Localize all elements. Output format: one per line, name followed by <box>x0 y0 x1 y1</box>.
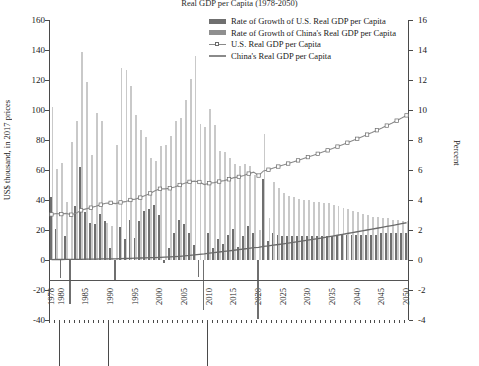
x-axis-tick <box>365 320 366 323</box>
x-axis-tick <box>261 320 262 323</box>
y-axis-right-tick-label: 14 <box>418 45 427 55</box>
x-axis-tick <box>360 320 361 323</box>
x-axis-tick <box>310 320 311 323</box>
y-axis-right-tick <box>409 170 413 171</box>
marker-us-gdp <box>178 183 181 186</box>
marker-us-gdp <box>99 203 102 206</box>
marker-us-gdp <box>405 114 408 117</box>
x-axis-tick <box>148 320 149 323</box>
legend-item[interactable]: China's Real GDP per Capita <box>209 51 414 62</box>
x-axis-tick <box>108 320 109 366</box>
x-axis-tick <box>153 320 154 323</box>
line-us-gdp <box>51 115 406 214</box>
line-series-group <box>49 20 409 320</box>
x-axis-tick <box>222 320 223 323</box>
plot-area <box>49 20 409 320</box>
x-axis-tick <box>49 320 50 323</box>
legend-swatch-icon <box>209 19 226 24</box>
marker-us-gdp <box>227 178 230 181</box>
legend-label: Rate of Growth of China's Real GDP per C… <box>231 28 396 38</box>
x-axis-tick <box>64 320 65 323</box>
x-axis-tick <box>103 320 104 323</box>
x-axis-tick <box>355 320 356 323</box>
y-axis-right-tick-label: 0 <box>418 255 423 265</box>
marker-us-gdp <box>267 168 270 171</box>
x-axis-tick <box>374 320 375 323</box>
x-axis-tick <box>113 320 114 323</box>
marker-us-gdp <box>296 159 299 162</box>
marker-us-gdp <box>198 180 201 183</box>
x-axis-tick <box>133 320 134 323</box>
x-axis-tick <box>291 320 292 323</box>
marker-us-gdp <box>356 137 359 140</box>
marker-us-gdp <box>346 141 349 144</box>
legend-item[interactable]: Rate of Growth of U.S. Real GDP per Capi… <box>209 16 414 27</box>
x-axis-tick <box>296 320 297 323</box>
x-axis-tick <box>157 320 158 323</box>
x-axis-tick <box>301 320 302 323</box>
x-axis-tick <box>330 320 331 323</box>
marker-us-gdp <box>139 196 142 199</box>
x-axis-tick <box>207 320 208 366</box>
marker-us-gdp <box>385 124 388 127</box>
legend-label: China's Real GDP per Capita <box>231 51 331 61</box>
marker-us-gdp <box>148 192 151 195</box>
x-axis-tick <box>187 320 188 323</box>
y-axis-left-tick-label: -20 <box>33 285 45 295</box>
y-axis-left-labels: 160140120100806040200-20-40 <box>0 20 45 320</box>
legend-label: U.S. Real GDP per Capita <box>231 39 321 49</box>
x-axis-tick <box>118 320 119 323</box>
x-axis-tick <box>202 320 203 323</box>
y-axis-right-tick <box>409 260 413 261</box>
legend-line-icon <box>209 42 226 47</box>
x-axis-tick <box>172 320 173 323</box>
y-axis-right-tick <box>409 140 413 141</box>
x-axis-tick <box>394 320 395 323</box>
y-axis-right-tick <box>409 110 413 111</box>
x-axis-tick <box>320 320 321 323</box>
y-axis-right-tick-label: -4 <box>418 315 426 325</box>
legend-label: Rate of Growth of U.S. Real GDP per Capi… <box>231 16 386 26</box>
y-axis-left-tick-label: 20 <box>36 225 45 235</box>
marker-us-gdp <box>395 119 398 122</box>
x-axis-tick <box>162 320 163 323</box>
y-axis-right-tick-label: 10 <box>418 105 427 115</box>
y-axis-right-labels: 1614121086420-2-4 <box>418 20 468 320</box>
x-axis-tick <box>335 320 336 323</box>
marker-us-gdp <box>208 182 211 185</box>
x-axis-tick <box>93 320 94 323</box>
y-axis-right-tick-label: 8 <box>418 135 423 145</box>
x-axis-tick <box>305 320 306 323</box>
x-axis-tick <box>340 320 341 323</box>
marker-us-gdp <box>129 198 132 201</box>
line-china-gdp <box>51 223 406 260</box>
x-axis-tick <box>98 320 99 323</box>
legend-item[interactable]: U.S. Real GDP per Capita <box>209 39 414 50</box>
x-axis-tick <box>84 320 85 323</box>
x-axis-tick <box>54 320 55 323</box>
marker-us-gdp <box>326 149 329 152</box>
y-axis-right-tick <box>409 290 413 291</box>
y-axis-right-tick <box>409 80 413 81</box>
marker-us-gdp <box>257 174 260 177</box>
x-axis-tick <box>399 320 400 323</box>
marker-us-gdp <box>336 145 339 148</box>
x-axis-tick <box>138 320 139 323</box>
legend-item[interactable]: Rate of Growth of China's Real GDP per C… <box>209 28 414 39</box>
y-axis-right-tick-label: 16 <box>418 15 427 25</box>
x-axis-tick <box>276 320 277 323</box>
x-axis-tick <box>167 320 168 323</box>
y-axis-left-tick-label: 140 <box>32 45 46 55</box>
x-axis-tick <box>192 320 193 323</box>
x-axis-tick <box>227 320 228 323</box>
marker-us-gdp <box>50 213 53 216</box>
y-axis-left-tick-label: 60 <box>36 165 45 175</box>
y-axis-right-tick <box>409 320 413 321</box>
x-axis-tick <box>345 320 346 323</box>
x-axis-tick <box>370 320 371 323</box>
y-axis-right-tick <box>409 200 413 201</box>
marker-us-gdp <box>277 165 280 168</box>
x-axis-tick <box>69 320 70 323</box>
x-axis-tick <box>182 320 183 323</box>
